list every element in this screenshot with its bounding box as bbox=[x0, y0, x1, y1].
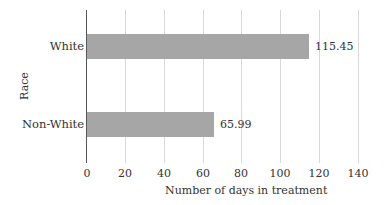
y-axis-title: Race bbox=[18, 72, 31, 100]
x-tick-40: 40 bbox=[157, 167, 171, 180]
category-label-white: White bbox=[50, 40, 84, 53]
bar-chart: Race White Non-White 115.45 65.99 0 20 4… bbox=[0, 0, 386, 205]
x-tick-0: 0 bbox=[84, 167, 91, 180]
x-tick-100: 100 bbox=[270, 167, 291, 180]
gridline-100 bbox=[280, 10, 281, 163]
data-label-white: 115.45 bbox=[315, 40, 354, 53]
gridline-120 bbox=[319, 10, 320, 163]
x-axis-title: Number of days in treatment bbox=[165, 184, 327, 197]
gridline-80 bbox=[241, 10, 242, 163]
bar-non-white bbox=[87, 112, 214, 137]
plot-area: 115.45 65.99 bbox=[86, 10, 376, 163]
bar-white bbox=[87, 34, 309, 59]
x-tick-140: 140 bbox=[348, 167, 369, 180]
category-label-non-white: Non-White bbox=[22, 118, 84, 131]
gridline-20 bbox=[125, 10, 126, 163]
x-tick-60: 60 bbox=[196, 167, 210, 180]
x-tick-20: 20 bbox=[118, 167, 132, 180]
data-label-non-white: 65.99 bbox=[220, 118, 252, 131]
gridline-60 bbox=[203, 10, 204, 163]
gridline-40 bbox=[164, 10, 165, 163]
x-tick-80: 80 bbox=[234, 167, 248, 180]
gridline-140 bbox=[358, 10, 359, 163]
x-tick-120: 120 bbox=[309, 167, 330, 180]
y-axis-line bbox=[86, 10, 87, 163]
